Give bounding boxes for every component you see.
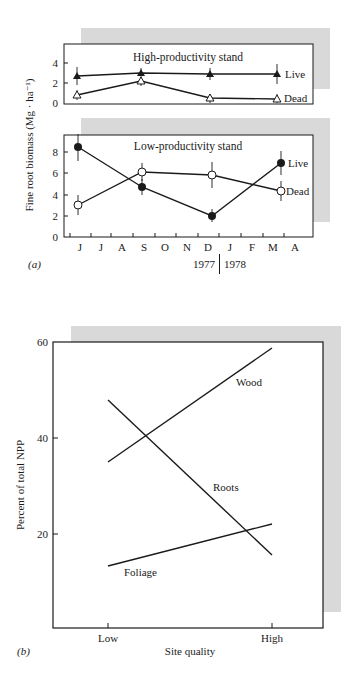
y-tick-label: 60 — [37, 336, 49, 348]
y-tick-label: 2 — [53, 77, 59, 89]
y-axis-label: Percent of total NPP — [14, 440, 26, 530]
series-label-dead: Dead — [286, 185, 310, 197]
x-tick-label-low: Low — [98, 632, 118, 644]
series-label-live: Live — [288, 157, 308, 169]
x-tick-label: D — [204, 241, 212, 253]
y-tick-label: 6 — [53, 167, 59, 179]
x-tick-label: S — [141, 241, 147, 253]
figure: 0 2 4 High-productivity stand Live — [0, 0, 359, 689]
series-label-wood: Wood — [236, 376, 263, 388]
y-tick-label: 8 — [53, 146, 59, 158]
year-label-1977: 1977 — [193, 258, 216, 270]
x-tick-label: O — [161, 241, 169, 253]
x-tick-labels: J J A S O N D J F M A — [78, 241, 299, 253]
x-tick-label: A — [291, 241, 299, 253]
chart-title: Low-productivity stand — [134, 140, 243, 153]
low-productivity-panel: 0 2 4 6 8 J J A S O N D J F — [53, 118, 331, 274]
y-tick-label: 4 — [53, 57, 59, 69]
y-tick-label: 2 — [53, 210, 59, 222]
high-productivity-panel: 0 2 4 High-productivity stand Live — [53, 28, 331, 109]
y-tick-label: 40 — [37, 432, 49, 444]
series-label-foliage: Foliage — [124, 566, 157, 578]
npp-allocation-panel: 20 40 60 Low High Site quality Percent o… — [14, 326, 341, 657]
plot-frame — [53, 342, 323, 628]
x-tick-label: N — [183, 241, 191, 253]
x-tick-label: M — [268, 241, 278, 253]
x-tick-label: A — [118, 241, 126, 253]
panel-label-b: (b) — [17, 645, 30, 658]
panel-label-a: (a) — [28, 258, 41, 271]
y-tick-label: 0 — [53, 97, 59, 109]
x-tick-label: J — [78, 241, 83, 253]
y-axis-label: Fine root biomass (Mg · ha⁻¹) — [23, 78, 36, 211]
x-axis-label: Site quality — [165, 645, 216, 657]
x-tick-label: J — [99, 241, 104, 253]
x-tick-label-high: High — [261, 632, 284, 644]
x-tick-label: F — [249, 241, 255, 253]
series-label-dead: Dead — [284, 92, 308, 104]
series-label-roots: Roots — [213, 481, 239, 493]
y-tick-label: 20 — [37, 528, 49, 540]
year-label-1978: 1978 — [224, 258, 247, 270]
chart-title: High-productivity stand — [133, 51, 243, 64]
x-tick-label: J — [228, 241, 233, 253]
series-label-live: Live — [285, 68, 305, 80]
y-tick-label: 4 — [53, 189, 59, 201]
y-tick-label: 0 — [53, 231, 59, 243]
